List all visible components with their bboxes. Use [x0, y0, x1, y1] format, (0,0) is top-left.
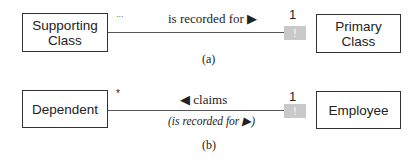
primary-class-line1: Primary	[335, 19, 382, 34]
dependent-class-label: Dependent	[32, 102, 98, 117]
supporting-class-line2: Class	[48, 33, 82, 48]
right-multiplicity-a: 1	[289, 7, 296, 22]
caption-a: (a)	[202, 52, 215, 67]
dependent-class-box: Dependent	[22, 90, 108, 128]
supporting-class-line1: Supporting	[32, 18, 97, 33]
association-sublabel-b: (is recorded for ▶)	[168, 114, 255, 128]
right-multiplicity-b: 1	[289, 89, 296, 104]
association-label-a: is recorded for ▶	[168, 11, 257, 27]
caption-b: (b)	[202, 138, 216, 153]
supporting-class-box: Supporting Class	[22, 13, 108, 52]
association-label-b: ◀ claims	[180, 92, 227, 108]
left-multiplicity-b: *	[116, 88, 120, 99]
employee-class-box: Employee	[316, 91, 401, 129]
association-line-a	[108, 32, 306, 33]
primary-class-box: Primary Class	[316, 14, 401, 53]
identifier-marker-a: !	[284, 26, 306, 40]
left-multiplicity-a: ...	[116, 9, 124, 19]
identifier-marker-b: !	[284, 104, 306, 118]
primary-class-line2: Class	[342, 34, 376, 49]
employee-class-label: Employee	[328, 103, 388, 118]
association-line-b	[108, 110, 306, 111]
